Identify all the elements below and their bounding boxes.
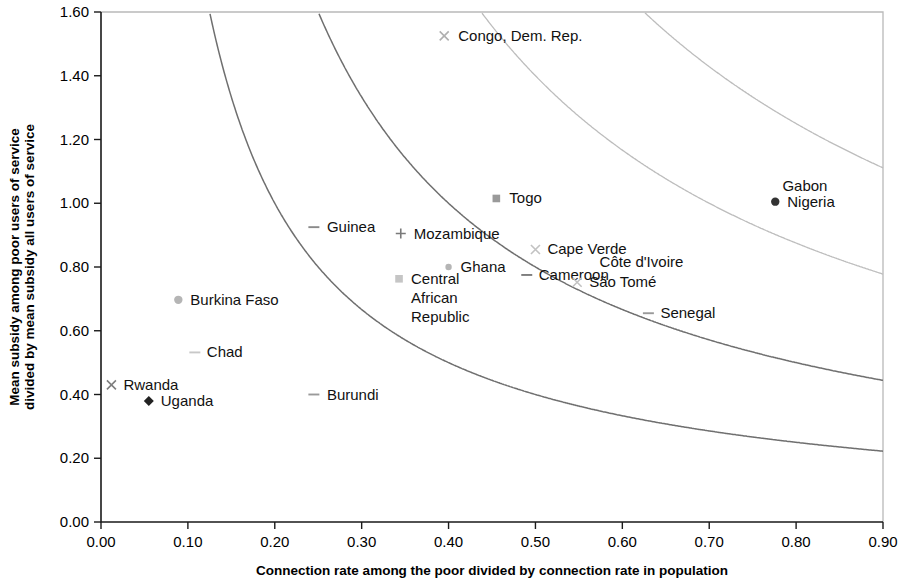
data-points: Congo, Dem. Rep.TogoGabonNigeriaGuineaMo… — [107, 27, 836, 409]
x-tick-label: 0.70 — [695, 533, 724, 550]
iso-curve-0.2 — [210, 14, 883, 451]
y-tick-label: 0.00 — [60, 513, 89, 530]
data-point: CentralAfricanRepublic — [395, 270, 470, 325]
x-tick-label: 0.90 — [868, 533, 897, 550]
x-tick-label: 0.60 — [608, 533, 637, 550]
data-point-label: Nigeria — [787, 193, 835, 210]
y-tick-label: 0.80 — [60, 258, 89, 275]
y-tick-label: 0.20 — [60, 449, 89, 466]
data-point: Burkina Faso — [174, 291, 279, 308]
axis-tick-labels: 0.000.100.200.300.400.500.600.700.800.90… — [60, 3, 898, 550]
data-point-label: Rwanda — [123, 376, 179, 393]
data-point-label: São Tomé — [589, 273, 656, 290]
axis-titles: Connection rate among the poor divided b… — [7, 124, 728, 578]
data-point-label: CentralAfricanRepublic — [411, 270, 470, 325]
x-tick-label: 0.20 — [260, 533, 289, 550]
data-point-label: Gabon — [782, 177, 827, 194]
data-point: Mozambique — [396, 225, 500, 242]
y-tick-label: 1.40 — [60, 67, 89, 84]
y-axis-title: Mean subsidy among poor users of service… — [7, 124, 38, 410]
x-tick-label: 0.10 — [173, 533, 202, 550]
data-point-label: Guinea — [327, 218, 376, 235]
data-point: Senegal — [643, 304, 716, 321]
y-tick-label: 1.00 — [60, 194, 89, 211]
y-tick-label: 1.20 — [60, 131, 89, 148]
y-tick-label: 1.60 — [60, 3, 89, 20]
data-point: Uganda — [144, 392, 214, 409]
data-point-label: Ghana — [461, 258, 507, 275]
data-point: Nigeria — [771, 193, 835, 210]
scatter-chart: 0.000.100.200.300.400.500.600.700.800.90… — [0, 0, 901, 582]
data-point-label: Burundi — [327, 386, 379, 403]
data-point-label: Uganda — [161, 392, 214, 409]
y-tick-label: 0.40 — [60, 386, 89, 403]
x-axis-title: Connection rate among the poor divided b… — [256, 563, 728, 578]
data-point-label: Mozambique — [414, 225, 500, 242]
y-tick-label: 0.60 — [60, 322, 89, 339]
data-point: Burundi — [308, 386, 378, 403]
data-point: Chad — [189, 343, 242, 360]
iso-curve-1.0 — [645, 13, 883, 168]
x-tick-label: 0.00 — [86, 533, 115, 550]
plot-area: 0.000.100.200.300.400.500.600.700.800.90… — [0, 0, 901, 582]
data-point-label: Senegal — [660, 304, 715, 321]
iso-curves — [210, 13, 883, 451]
x-tick-label: 0.80 — [782, 533, 811, 550]
x-tick-label: 0.30 — [347, 533, 376, 550]
data-point-label: Côte d'Ivoire — [600, 253, 684, 270]
data-point: Guinea — [308, 218, 376, 235]
data-point-label: Chad — [207, 343, 243, 360]
x-tick-label: 0.50 — [521, 533, 550, 550]
data-point-label: Congo, Dem. Rep. — [458, 27, 582, 44]
iso-curve-0.7 — [482, 13, 883, 274]
data-point-label: Togo — [509, 189, 542, 206]
x-tick-label: 0.40 — [434, 533, 463, 550]
data-point: Congo, Dem. Rep. — [440, 27, 583, 44]
data-point: Gabon — [782, 177, 827, 194]
data-point: Rwanda — [107, 376, 179, 393]
data-point: Togo — [493, 189, 542, 206]
data-point: Côte d'Ivoire — [600, 253, 684, 270]
data-point-label: Burkina Faso — [190, 291, 278, 308]
